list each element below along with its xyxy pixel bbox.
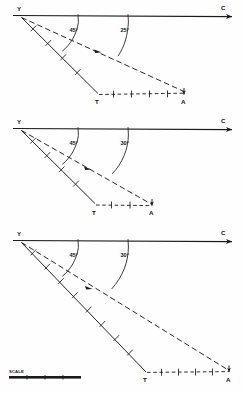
- panel-2: Y C T A 45° 30°: [13, 117, 232, 216]
- scale-bar-label: SCALE: [9, 369, 24, 374]
- angle-label-solid-panel-3: 45°: [70, 252, 78, 258]
- dashed-line-ya-panel-3: [22, 243, 230, 371]
- baseline-yc-panel-1: [13, 16, 232, 17]
- label-aim-a-panel-3: A: [226, 376, 231, 383]
- plus-line-ta-panel-1: [99, 93, 184, 94]
- survey-diagram-svg: Y C T A 45° 25°: [0, 0, 244, 394]
- angle-label-dashed-panel-1: 25°: [121, 27, 129, 33]
- angle-label-dashed-panel-2: 30°: [121, 140, 129, 146]
- label-aim-a-panel-1: A: [181, 98, 186, 105]
- label-track-t-panel-2: T: [92, 209, 96, 216]
- panel-3: Y C T A 45° 30°: [13, 229, 232, 383]
- dashed-line-ya-panel-2: [22, 131, 153, 205]
- tick-marks-yt-panel-3: [31, 250, 133, 356]
- label-vertex-y-panel-2: Y: [17, 118, 22, 125]
- direction-arrow-ya-panel-1: [94, 50, 102, 54]
- label-course-c-panel-1: C: [221, 4, 226, 11]
- angle-label-dashed-panel-3: 30°: [121, 252, 129, 258]
- label-track-t-panel-1: T: [95, 98, 99, 105]
- plus-line-ta-panel-3: [147, 372, 229, 373]
- label-track-t-panel-3: T: [143, 376, 147, 383]
- label-course-c-panel-2: C: [221, 117, 226, 124]
- scale-bar: SCALE: [9, 369, 81, 380]
- angle-label-solid-panel-1: 45°: [70, 27, 78, 33]
- label-vertex-y-panel-1: Y: [17, 5, 22, 12]
- label-vertex-y-panel-3: Y: [17, 230, 22, 237]
- angle-label-solid-panel-2: 45°: [70, 140, 78, 146]
- dashed-line-ya-panel-1: [22, 18, 185, 92]
- plus-ticks-ta-panel-1: [114, 90, 168, 97]
- label-course-c-panel-3: C: [221, 229, 226, 236]
- direction-arrow-ya-panel-3: [85, 286, 93, 290]
- baseline-yc-panel-2: [13, 129, 232, 130]
- panel-1: Y C T A 45° 25°: [13, 4, 232, 105]
- plus-line-ta-panel-2: [96, 205, 152, 206]
- label-aim-a-panel-2: A: [149, 209, 154, 216]
- diagram-canvas: Y C T A 45° 25°: [0, 0, 244, 394]
- baseline-yc-panel-3: [13, 241, 232, 242]
